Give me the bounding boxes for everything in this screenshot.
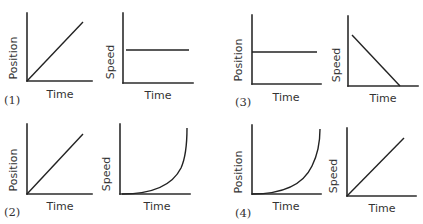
x-axis-label: Time [46, 200, 74, 213]
x-axis-label: Time [143, 200, 171, 213]
panel-1-speed-graph: Speed Time [104, 13, 193, 102]
motion-graphs-diagram: Position Time Speed Time (1) Position Ti… [0, 0, 423, 224]
panel-3-position-graph: Position Time [232, 15, 321, 104]
y-axis-label: Speed [104, 45, 117, 79]
y-axis-label: Position [232, 151, 245, 194]
x-axis-label: Time [144, 89, 172, 102]
panel-2-speed-graph: Speed Time [100, 124, 190, 213]
y-axis-label: Position [7, 149, 20, 192]
increasing-curve [252, 129, 320, 194]
panel-2-position-graph: Position Time [7, 124, 92, 213]
rising-line [27, 134, 83, 194]
y-axis-label: Position [232, 39, 245, 82]
x-axis-label: Time [272, 200, 300, 213]
panel-4: Position Time Speed Time (4) [232, 125, 416, 220]
x-axis-label: Time [369, 92, 397, 105]
x-axis-label: Time [368, 202, 396, 215]
panel-1: Position Time Speed Time (1) [4, 13, 193, 107]
panel-3-speed-graph: Speed Time [330, 16, 418, 105]
panel-number: (4) [235, 206, 251, 220]
rising-line [27, 22, 83, 81]
rising-line [347, 138, 404, 196]
panel-number: (1) [4, 93, 20, 107]
increasing-curve [122, 128, 187, 194]
panel-3: Position Time Speed Time (3) [232, 15, 418, 109]
panel-2: Position Time Speed Time (2) [4, 124, 190, 219]
panel-4-position-graph: Position Time [232, 125, 321, 213]
y-axis-label: Position [7, 37, 20, 80]
y-axis-label: Speed [327, 159, 340, 193]
y-axis-label: Speed [330, 48, 343, 82]
panel-number: (2) [4, 205, 20, 219]
x-axis-label: Time [46, 88, 74, 101]
panel-number: (3) [235, 95, 251, 109]
panel-1-position-graph: Position Time [7, 13, 92, 101]
x-axis-label: Time [272, 91, 300, 104]
panel-4-speed-graph: Speed Time [327, 128, 416, 215]
decreasing-line [352, 35, 400, 86]
y-axis-label: Speed [100, 157, 113, 191]
